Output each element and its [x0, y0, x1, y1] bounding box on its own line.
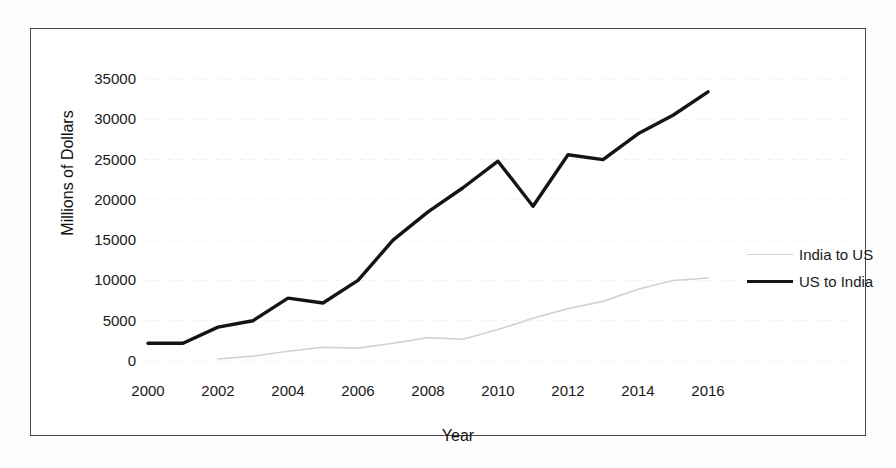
x-tick-2014: 2014 [608, 383, 668, 398]
legend-label-us-to-india: US to India [793, 273, 873, 290]
x-axis-label: Year [178, 427, 738, 445]
y-tick-20000: 20000 [70, 192, 136, 207]
y-tick-10000: 10000 [70, 272, 136, 287]
x-tick-2010: 2010 [468, 383, 528, 398]
x-tick-2008: 2008 [398, 383, 458, 398]
legend-swatch-india-to-us [747, 249, 793, 261]
legend-swatch-us-to-india [747, 276, 793, 288]
y-tick-0: 0 [70, 353, 136, 368]
legend-label-india-to-us: India to US [793, 246, 873, 263]
x-tick-2002: 2002 [188, 383, 248, 398]
legend-item-india-to-us[interactable]: India to US [747, 241, 896, 268]
y-axis-label: Millions of Dollars [59, 78, 77, 268]
x-tick-2016: 2016 [678, 383, 738, 398]
chart-legend: India to US US to India [747, 241, 896, 295]
x-tick-2012: 2012 [538, 383, 598, 398]
x-tick-2000: 2000 [118, 383, 178, 398]
y-tick-15000: 15000 [70, 232, 136, 247]
x-tick-2004: 2004 [258, 383, 318, 398]
legend-item-us-to-india[interactable]: US to India [747, 268, 896, 295]
chart-frame: 05000100001500020000250003000035000 2000… [30, 28, 866, 436]
y-tick-35000: 35000 [70, 71, 136, 86]
gridlines [130, 79, 851, 361]
series-line-us-to-india [148, 92, 708, 343]
y-tick-30000: 30000 [70, 111, 136, 126]
series-line-india-to-us [218, 278, 708, 359]
series-layer [148, 92, 708, 359]
y-tick-25000: 25000 [70, 152, 136, 167]
line-chart-plot [31, 29, 864, 434]
x-tick-2006: 2006 [328, 383, 388, 398]
chart-figure: 05000100001500020000250003000035000 2000… [0, 0, 896, 468]
y-tick-5000: 5000 [70, 313, 136, 328]
